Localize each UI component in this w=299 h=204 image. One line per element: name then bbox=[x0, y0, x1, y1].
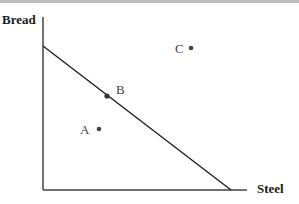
point-a-marker bbox=[97, 127, 102, 132]
point-b-marker bbox=[104, 93, 109, 98]
point-c-label: C bbox=[175, 41, 184, 56]
x-axis-label: Steel bbox=[257, 181, 284, 196]
point-b-label: B bbox=[116, 82, 125, 97]
point-a-label: A bbox=[80, 122, 90, 137]
point-c-marker bbox=[189, 46, 194, 51]
ppf-chart: Bread Steel B A C bbox=[0, 0, 299, 204]
y-axis-label: Bread bbox=[2, 12, 36, 27]
production-possibilities-frontier bbox=[43, 46, 231, 190]
